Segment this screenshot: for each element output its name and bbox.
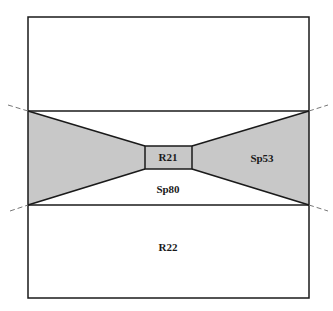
dashed-extension-bottom-right bbox=[309, 205, 328, 211]
label-r21: R21 bbox=[159, 151, 178, 163]
diagram-canvas: R21 Sp53 Sp80 R22 bbox=[0, 0, 333, 311]
dashed-extension-top-left bbox=[8, 105, 28, 111]
label-r22: R22 bbox=[159, 241, 178, 253]
label-sp53: Sp53 bbox=[250, 152, 274, 164]
dashed-extension-bottom-left bbox=[10, 205, 28, 211]
label-sp80: Sp80 bbox=[156, 183, 180, 195]
dashed-extension-top-right bbox=[309, 105, 328, 111]
left-shaded-region bbox=[28, 111, 145, 205]
